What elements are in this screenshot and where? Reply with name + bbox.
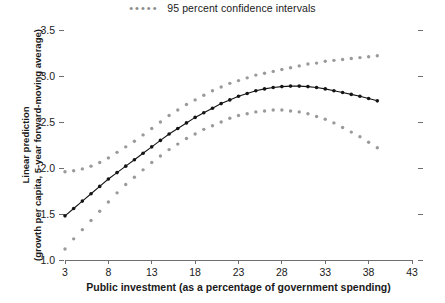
ci-lower-dot bbox=[315, 115, 318, 118]
ci-upper-dot bbox=[185, 103, 188, 106]
ci-upper-dot bbox=[289, 66, 292, 69]
ci-upper-dot bbox=[245, 76, 248, 79]
ci-upper-dot bbox=[358, 56, 361, 59]
x-tick-label: 18 bbox=[189, 266, 201, 278]
ci-lower-dot bbox=[63, 247, 66, 250]
linear-prediction-point bbox=[367, 97, 371, 101]
axes-group bbox=[59, 30, 423, 264]
ci-upper-dot bbox=[115, 151, 118, 154]
linear-prediction-point bbox=[63, 214, 67, 218]
ci-upper-dot bbox=[315, 61, 318, 64]
linear-prediction-point bbox=[280, 85, 284, 89]
ci-lower-dot bbox=[341, 126, 344, 129]
linear-prediction-point bbox=[211, 106, 215, 110]
axis-labels-group: 1.01.52.02.53.03.53813182328333843Public… bbox=[20, 24, 418, 294]
ci-upper-dot bbox=[141, 133, 144, 136]
ci-upper-dot bbox=[159, 120, 162, 123]
ci-upper-dot bbox=[133, 140, 136, 143]
linear-prediction-point bbox=[358, 94, 362, 98]
linear-prediction-point bbox=[289, 84, 293, 88]
linear-prediction-point bbox=[193, 116, 197, 120]
ci-lower-dot bbox=[332, 121, 335, 124]
linear-prediction-point bbox=[263, 87, 267, 91]
linear-prediction-point bbox=[150, 145, 154, 149]
linear-prediction-point bbox=[89, 192, 93, 196]
ci-lower-dot bbox=[193, 132, 196, 135]
linear-prediction-point bbox=[254, 89, 258, 93]
x-tick-label: 8 bbox=[105, 266, 111, 278]
ci-lower-dot bbox=[89, 219, 92, 222]
chart-container: ••••• 95 percent confidence intervals 1.… bbox=[0, 0, 445, 303]
linear-prediction-point bbox=[306, 85, 310, 89]
linear-prediction-line bbox=[65, 86, 377, 216]
ci-lower-dot bbox=[115, 191, 118, 194]
plot-area: 1.01.52.02.53.03.53813182328333843Public… bbox=[0, 0, 445, 303]
x-tick-label: 38 bbox=[363, 266, 375, 278]
ci-lower-dot bbox=[298, 110, 301, 113]
ci-upper-dot bbox=[81, 167, 84, 170]
linear-prediction-point bbox=[228, 98, 232, 102]
linear-prediction-point bbox=[202, 111, 206, 115]
ci-lower-dot bbox=[272, 108, 275, 111]
x-tick-label: 23 bbox=[233, 266, 245, 278]
ci-upper-dot bbox=[367, 55, 370, 58]
ci-lower-dot bbox=[141, 168, 144, 171]
y-axis-title-line2: (growth per capita, 5-year forward-movin… bbox=[32, 29, 43, 261]
linear-prediction-point bbox=[237, 94, 241, 98]
linear-prediction-point bbox=[245, 92, 249, 96]
ci-upper-dot bbox=[332, 59, 335, 62]
linear-prediction-point bbox=[159, 139, 163, 143]
ci-upper-dot bbox=[202, 94, 205, 97]
ci-lower-dot bbox=[159, 154, 162, 157]
linear-prediction-point bbox=[271, 86, 275, 90]
linear-prediction-point bbox=[315, 86, 319, 90]
x-axis-title: Public investment (as a percentage of go… bbox=[86, 281, 391, 293]
linear-prediction-point bbox=[72, 207, 76, 211]
ci-upper-dot bbox=[350, 57, 353, 60]
series-ci-upper bbox=[63, 54, 379, 173]
series-ci-lower bbox=[63, 108, 379, 250]
ci-lower-dot bbox=[254, 110, 257, 113]
linear-prediction-point bbox=[98, 185, 102, 189]
linear-prediction-point bbox=[107, 177, 111, 181]
ci-upper-dot bbox=[263, 72, 266, 75]
linear-prediction-point bbox=[167, 132, 171, 136]
ci-lower-dot bbox=[350, 130, 353, 133]
ci-upper-dot bbox=[124, 145, 127, 148]
ci-upper-dot bbox=[228, 82, 231, 85]
ci-upper-dot bbox=[89, 164, 92, 167]
x-tick-label: 28 bbox=[276, 266, 288, 278]
ci-lower-dot bbox=[228, 117, 231, 120]
x-tick-label: 43 bbox=[406, 266, 418, 278]
ci-upper-dot bbox=[193, 98, 196, 101]
linear-prediction-point bbox=[332, 89, 336, 93]
ci-lower-dot bbox=[237, 114, 240, 117]
ci-upper-dot bbox=[298, 64, 301, 67]
ci-lower-dot bbox=[107, 200, 110, 203]
ci-lower-dot bbox=[185, 137, 188, 140]
ci-lower-dot bbox=[280, 108, 283, 111]
ci-upper-dot bbox=[98, 161, 101, 164]
ci-upper-dot bbox=[237, 79, 240, 82]
ci-lower-dot bbox=[133, 176, 136, 179]
linear-prediction-point bbox=[349, 93, 353, 97]
ci-upper-dot bbox=[376, 54, 379, 57]
ci-upper-dot bbox=[150, 127, 153, 130]
linear-prediction-point bbox=[219, 102, 223, 106]
ci-lower-dot bbox=[72, 237, 75, 240]
ci-upper-dot bbox=[219, 85, 222, 88]
ci-upper-dot bbox=[254, 73, 257, 76]
ci-lower-dot bbox=[202, 128, 205, 131]
ci-lower-dot bbox=[367, 141, 370, 144]
series-linear-prediction bbox=[63, 84, 379, 217]
linear-prediction-point bbox=[133, 158, 137, 162]
ci-lower-dot bbox=[167, 148, 170, 151]
linear-prediction-point bbox=[115, 171, 119, 175]
ci-lower-dot bbox=[219, 120, 222, 123]
ci-lower-dot bbox=[176, 142, 179, 145]
ci-lower-dot bbox=[81, 228, 84, 231]
ci-lower-dot bbox=[98, 210, 101, 213]
ci-upper-dot bbox=[341, 58, 344, 61]
ci-upper-dot bbox=[280, 68, 283, 71]
ci-upper-dot bbox=[211, 89, 214, 92]
